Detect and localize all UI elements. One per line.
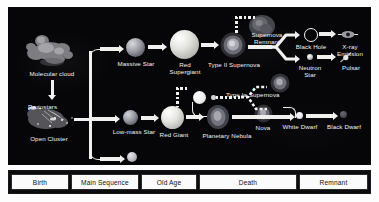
accretion-companion-dot <box>211 95 216 100</box>
arrow-to-low-mass-star <box>90 117 116 120</box>
arrowhead-bh-to-xray <box>331 30 336 38</box>
label-black-hole: Black Hole <box>293 43 329 50</box>
stage-death: Death <box>199 174 297 190</box>
label-protostars: Protostars <box>28 103 84 110</box>
neutron-star-graphic <box>307 54 313 60</box>
brown-dwarf-graphic <box>127 152 137 162</box>
arrowhead-white-to-black-dwarf <box>333 112 338 120</box>
fork-riser <box>89 51 92 159</box>
fork-typeia-nova <box>240 83 268 115</box>
stage-main-sequence: Main Sequence <box>71 174 139 190</box>
label-type-ia-supernova: Type Ia Supernova <box>226 91 298 98</box>
label-white-dwarf: White Dwarf <box>282 123 318 130</box>
arrowhead-lowmass-to-redgiant <box>154 114 159 122</box>
label-molecular-cloud: Molecular cloud <box>10 70 94 77</box>
label-nova: Nova <box>245 124 281 131</box>
dashed-redgiant-top <box>176 87 188 90</box>
black-dwarf-graphic <box>340 111 347 118</box>
arrow-lowmass-to-redgiant <box>141 116 155 119</box>
black-hole-graphic <box>304 28 318 42</box>
red-giant-graphic <box>161 106 184 129</box>
label-massive-star: Massive Star <box>112 60 160 67</box>
stage-remnant-label: Remnant <box>320 179 348 186</box>
arrow-to-massive-star <box>100 47 120 50</box>
arrowhead-to-massive-star <box>119 45 124 53</box>
arrowhead-to-low-mass-star <box>115 115 120 123</box>
stage-old-age-label: Old Age <box>157 179 182 186</box>
stage-bar: Birth Main Sequence Old Age Death Remnan… <box>8 170 371 194</box>
stage-death-label: Death <box>239 179 257 186</box>
label-red-supergiant: Red Supergiant <box>163 61 207 75</box>
molecular-cloud-graphic <box>22 29 80 69</box>
arrow-cloud-to-protostars <box>51 80 54 96</box>
label-pulsar: Pulsar <box>334 64 368 71</box>
nova-to-white-dwarf-elbow <box>283 107 296 118</box>
xray-emission-graphic <box>338 27 358 40</box>
arrow-massive-to-supergiant <box>148 45 163 48</box>
stage-main-sequence-label: Main Sequence <box>81 179 129 186</box>
stage-remnant: Remnant <box>299 174 368 190</box>
label-type-ii-supernova: Type II Supernova <box>207 61 261 68</box>
label-supernova-remnant: Supernova Remnant <box>240 31 294 45</box>
label-brown-dwarf: Brown Dwarf <box>107 163 159 165</box>
low-mass-star-graphic <box>123 110 138 125</box>
arrow-white-to-black-dwarf <box>306 114 334 117</box>
stage-birth-label: Birth <box>33 179 47 186</box>
arrow-to-brown-dwarf <box>100 157 121 160</box>
arrowhead-to-brown-dwarf <box>120 155 125 163</box>
fork-corner-top <box>89 49 104 64</box>
label-xray-emission: X-ray Emission <box>330 43 370 57</box>
binary-return-elbow <box>192 102 207 117</box>
stage-birth: Birth <box>11 174 69 190</box>
label-low-mass-star: Low-mass Star <box>107 128 161 135</box>
label-red-giant: Red Giant <box>154 131 194 138</box>
white-dwarf-graphic <box>296 112 303 119</box>
arrowhead-supergiant-to-snii <box>214 41 219 49</box>
stage-old-age: Old Age <box>141 174 197 190</box>
stellar-evolution-figure: Molecular cloud <box>0 0 379 202</box>
arrow-supergiant-to-snii <box>201 43 215 46</box>
label-neutron-star: Neutron Star <box>293 64 327 78</box>
label-open-cluster: Open Cluster <box>12 135 86 142</box>
dashed-snii-to-remnant-horizontal <box>235 16 257 19</box>
type-ia-supernova-graphic <box>270 73 290 93</box>
arrowhead-to-black-hole <box>295 31 300 39</box>
arrowhead-cloud-to-protostars <box>48 95 56 100</box>
label-black-dwarf: Black Dwarf <box>326 123 362 130</box>
dashed-snii-to-remnant-vertical <box>235 17 238 33</box>
label-planetary-nebula: Planetary Nebula <box>196 132 258 139</box>
dashed-redgiant-riser <box>176 88 179 107</box>
diagram-panel: Molecular cloud <box>8 7 371 165</box>
red-supergiant-graphic <box>170 30 199 59</box>
massive-star-graphic <box>126 38 145 57</box>
planetary-nebula-graphic <box>205 104 231 130</box>
arrowhead-massive-to-supergiant <box>162 43 167 51</box>
arrowhead-to-neutron-star <box>295 55 300 63</box>
